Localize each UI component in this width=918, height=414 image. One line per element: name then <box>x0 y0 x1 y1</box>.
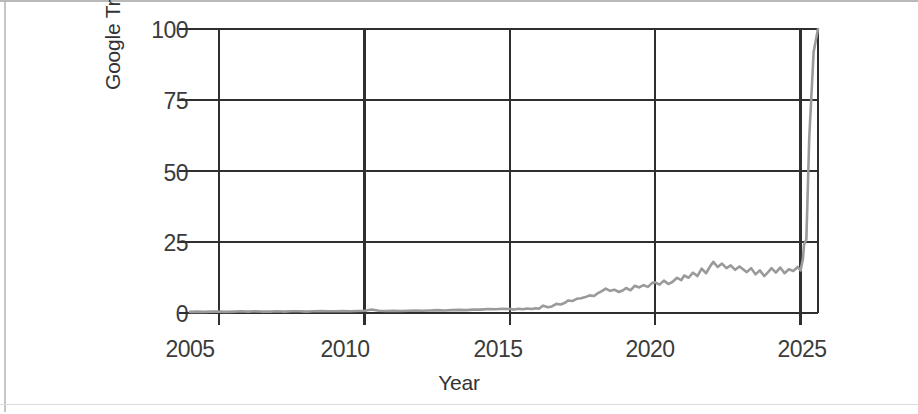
gridlines <box>190 29 818 313</box>
chart-svg <box>0 0 918 414</box>
figure-container: 100 75 50 25 0 2005 2010 2015 2020 2025 … <box>0 0 918 414</box>
axis-ticks <box>179 29 801 325</box>
plot-area <box>0 0 918 414</box>
